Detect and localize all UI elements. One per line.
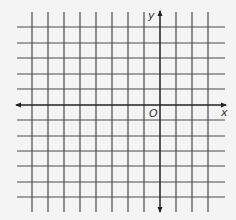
y-axis-down-arrow-icon: [158, 207, 163, 213]
y-axis-up-arrow-icon: [158, 10, 163, 16]
x-axis-left-arrow-icon: [15, 103, 21, 108]
grid-svg: x y O: [0, 0, 236, 220]
x-axis-label: x: [220, 106, 228, 119]
coordinate-plane: x y O: [0, 0, 236, 220]
y-axis-label: y: [147, 9, 155, 22]
grid-lines: [17, 12, 225, 212]
origin-label: O: [149, 107, 158, 120]
